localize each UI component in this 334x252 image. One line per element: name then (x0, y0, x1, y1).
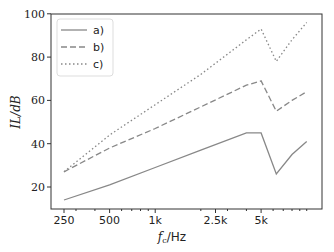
y-tick-label: 20 (31, 181, 45, 194)
legend-label: c) (93, 58, 103, 71)
x-tick-label: 5k (254, 214, 268, 227)
x-tick-label: 2.5k (204, 214, 228, 227)
y-tick-label: 40 (31, 138, 45, 151)
x-tick-label: 250 (54, 214, 75, 227)
x-tick-label: 1k (149, 214, 163, 227)
y-axis: 20406080100 (24, 8, 51, 194)
series-line-1 (64, 133, 307, 200)
legend-label: a) (93, 24, 104, 37)
legend-label: b) (93, 41, 104, 54)
x-axis-label: fc/Hz (157, 230, 186, 245)
y-tick-label: 80 (31, 51, 45, 64)
y-tick-label: 60 (31, 94, 45, 107)
y-tick-label: 100 (24, 8, 45, 21)
y-axis-label: IL/dB (9, 95, 23, 129)
x-tick-label: 500 (99, 214, 120, 227)
legend: a)b)c) (57, 19, 113, 76)
x-axis: 2505001k2.5k5k (54, 209, 307, 227)
line-chart: 2505001k2.5k5k 20406080100 a)b)c) fc/Hz … (0, 0, 334, 252)
